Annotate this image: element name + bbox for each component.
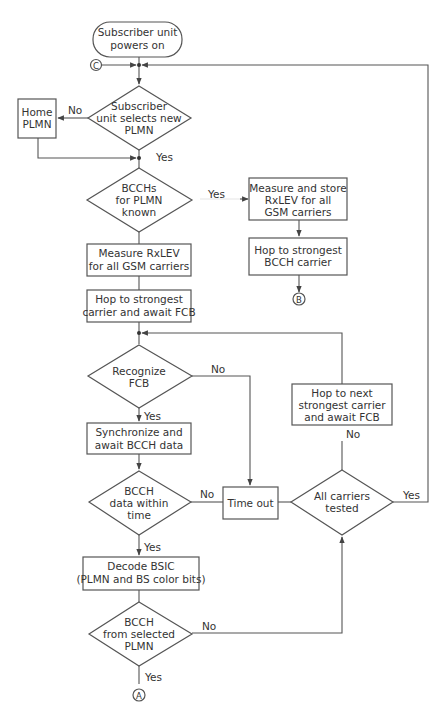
- node-bcch-time-line-1: BCCH: [124, 485, 154, 497]
- node-hop-next-line-2: strongest carrier: [298, 399, 386, 411]
- connector-c: C: [91, 60, 102, 71]
- node-recognize-fcb-line-1: Recognize: [112, 365, 166, 377]
- node-synchronize: Synchronize and await BCCH data: [87, 423, 191, 454]
- node-measure-rxlev-line-2: for all GSM carriers: [89, 260, 189, 272]
- node-measure-rxlev-line-1: Measure RxLEV: [98, 247, 180, 259]
- node-bcch-selected-line-2: from selected: [103, 628, 175, 640]
- label-select-yes: Yes: [155, 151, 173, 163]
- label-bcch-time-yes: Yes: [143, 541, 161, 553]
- node-synchronize-line-1: Synchronize and: [95, 426, 182, 438]
- node-home-plmn-line-1: Home: [21, 106, 52, 118]
- node-hop-strongest-line-2: carrier and await FCB: [82, 306, 195, 318]
- node-hop-next-line-3: and await FCB: [304, 411, 380, 423]
- node-bcch-time-line-3: time: [127, 509, 151, 521]
- label-select-no: No: [68, 104, 82, 116]
- junction-dot-top: [137, 63, 141, 67]
- node-bcch-time: BCCH data within time: [89, 471, 191, 535]
- junction-dot-recognize: [137, 331, 141, 335]
- connector-b: B: [293, 293, 305, 305]
- node-bcch-known-line-3: known: [122, 206, 156, 218]
- node-start-line-1: Subscriber unit: [98, 26, 178, 38]
- node-select-plmn-line-3: PLMN: [124, 124, 153, 136]
- node-decode-bsic-line-1: Decode BSIC: [107, 560, 174, 572]
- node-home-plmn-line-2: PLMN: [22, 118, 51, 130]
- node-hop-bcch-line-2: BCCH carrier: [264, 256, 332, 268]
- label-all-tested-yes: Yes: [402, 489, 420, 501]
- gsm-cell-selection-flowchart: Subscriber unit powers on C Subscriber u…: [0, 0, 443, 718]
- node-select-plmn-line-1: Subscriber: [111, 100, 168, 112]
- label-bcch-time-no: No: [200, 488, 214, 500]
- label-recognize-yes: Yes: [143, 410, 161, 422]
- node-measure-store: Measure and store RxLEV for all GSM carr…: [249, 178, 347, 220]
- edge-recognize-no: [192, 376, 250, 485]
- node-measure-store-line-1: Measure and store: [249, 182, 347, 194]
- node-hop-bcch: Hop to strongest BCCH carrier: [249, 238, 347, 275]
- connector-c-label: C: [93, 61, 99, 71]
- node-measure-rxlev: Measure RxLEV for all GSM carriers: [87, 244, 191, 276]
- label-bcch-known-yes: Yes: [207, 188, 225, 200]
- node-bcch-selected: BCCH from selected PLMN: [89, 602, 192, 666]
- node-recognize-fcb: Recognize FCB: [88, 345, 192, 408]
- node-hop-strongest-line-1: Hop to strongest: [95, 293, 183, 305]
- node-time-out: Time out: [223, 487, 278, 519]
- node-start: Subscriber unit powers on: [93, 22, 182, 57]
- label-bcch-selected-no: No: [202, 620, 216, 632]
- node-all-tested-line-1: All carriers: [314, 490, 370, 502]
- edge-home-return: [38, 138, 136, 158]
- node-bcch-known: BCCHs for PLMN known: [87, 168, 192, 232]
- edge-bcch-selected-no: [192, 537, 342, 633]
- node-home-plmn: Home PLMN: [18, 99, 56, 138]
- node-decode-bsic-line-2: (PLMN and BS color bits): [76, 573, 205, 585]
- connector-b-label: B: [296, 295, 302, 305]
- node-measure-store-line-3: GSM carriers: [264, 206, 331, 218]
- label-bcch-selected-yes: Yes: [144, 671, 162, 683]
- node-select-plmn-line-2: unit selects new: [96, 112, 182, 124]
- node-bcch-selected-line-3: PLMN: [124, 640, 153, 652]
- node-hop-strongest: Hop to strongest carrier and await FCB: [82, 290, 195, 322]
- node-hop-bcch-line-1: Hop to strongest: [254, 244, 342, 256]
- connector-a: A: [133, 689, 145, 701]
- node-bcch-selected-line-1: BCCH: [124, 616, 154, 628]
- node-bcch-time-line-2: data within: [110, 497, 169, 509]
- node-bcch-known-line-2: for PLMN: [116, 194, 163, 206]
- node-hop-next: Hop to next strongest carrier and await …: [292, 384, 392, 425]
- node-all-tested: All carriers tested: [291, 470, 393, 535]
- label-hop-next-no: No: [346, 428, 360, 440]
- node-synchronize-line-2: await BCCH data: [95, 439, 183, 451]
- junction-dot-home: [137, 156, 141, 160]
- node-hop-next-line-1: Hop to next: [311, 387, 372, 399]
- node-measure-store-line-2: RxLEV for all: [265, 194, 332, 206]
- node-select-plmn: Subscriber unit selects new PLMN: [88, 86, 191, 150]
- node-bcch-known-line-1: BCCHs: [121, 182, 156, 194]
- node-start-line-2: powers on: [110, 39, 164, 51]
- label-recognize-no: No: [211, 363, 225, 375]
- node-recognize-fcb-line-2: FCB: [129, 377, 150, 389]
- node-decode-bsic: Decode BSIC (PLMN and BS color bits): [76, 557, 205, 590]
- node-time-out-line-1: Time out: [226, 497, 273, 509]
- connector-a-label: A: [136, 691, 142, 701]
- node-all-tested-line-2: tested: [325, 502, 358, 514]
